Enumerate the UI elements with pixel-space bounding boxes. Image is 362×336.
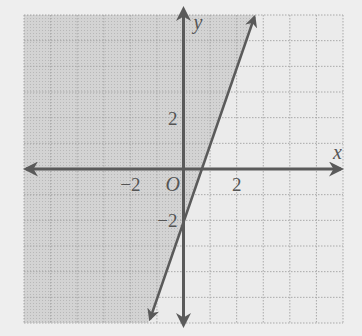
x-axis-label: x — [332, 141, 342, 163]
graph-container: x y O −222−2 — [0, 0, 362, 336]
y-tick-label: 2 — [168, 108, 178, 129]
inequality-graph: x y O −222−2 — [0, 0, 362, 336]
x-tick-label: −2 — [120, 174, 140, 195]
x-tick-label: 2 — [232, 174, 242, 195]
y-axis-label: y — [192, 11, 203, 34]
origin-label: O — [166, 173, 180, 195]
y-tick-label: −2 — [157, 210, 177, 231]
